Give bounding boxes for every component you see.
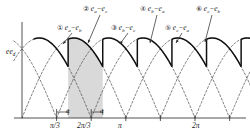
alpha-label-right: α [100,108,104,115]
y-axis-label: ee_ded [6,48,15,56]
xtick-label-pi-over-3: π/3 [50,122,60,130]
axes [14,22,246,118]
xtick-label-2pi-over-3: 2π/3 [77,122,91,130]
xtick-label-2pi: 2π [192,122,200,130]
alpha-label-left: α [66,108,70,115]
callout-label-1: ① ea−eb [57,24,81,32]
xtick-label-pi: π [118,122,122,130]
callout-label-6: ⑥ ec−eb [196,5,220,13]
callout-label-3: ③ eb−ec [111,24,135,32]
rectifier-waveform-figure: ee_ded ① ea−eb ② ea−ec ③ eb−ec ④ eb−ea ⑤… [0,0,250,135]
shaded-conduction-region [68,38,103,118]
callout-label-5: ⑤ ec−ea [165,24,189,32]
callout-label-2: ② ea−ec [83,5,107,13]
dashed-source-voltage-curves [14,38,250,118]
output-voltage-waveform [34,38,250,67]
callout-label-4: ④ eb−ea [140,5,164,13]
waveform-plot [0,0,250,135]
